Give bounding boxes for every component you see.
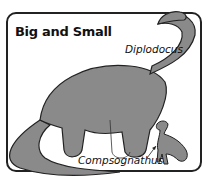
- diplodocus-body: [40, 65, 166, 157]
- label-compsognathus: Compsognathus: [78, 154, 163, 166]
- title: Big and Small: [15, 24, 112, 39]
- label-diplodocus: Diplodocus: [125, 43, 183, 55]
- illustration: Big and Small Diplodocus Compsognathus: [0, 0, 214, 180]
